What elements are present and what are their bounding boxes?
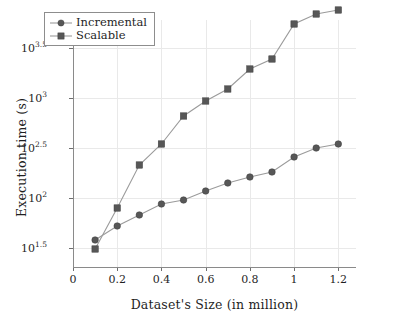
data-point-scalable (92, 246, 98, 252)
data-point-incremental (114, 223, 121, 230)
data-point-scalable (114, 205, 120, 211)
square-marker-icon (49, 30, 73, 42)
y-tick-label: 102.5 (21, 140, 47, 155)
data-point-incremental (158, 201, 165, 208)
legend-label-scalable: Scalable (76, 29, 126, 42)
x-tick-label: 0 (53, 273, 93, 286)
data-point-incremental (313, 145, 320, 152)
data-point-scalable (158, 141, 164, 147)
x-tick-label: 0.8 (230, 273, 270, 286)
x-tick-label: 0.6 (186, 273, 226, 286)
data-point-scalable (335, 7, 341, 13)
data-point-incremental (291, 154, 298, 161)
data-point-incremental (202, 188, 209, 195)
data-point-scalable (225, 86, 231, 92)
data-point-incremental (224, 180, 231, 187)
data-point-scalable (269, 56, 275, 62)
data-point-incremental (180, 197, 187, 204)
data-point-incremental (247, 174, 254, 181)
circle-marker-icon (49, 17, 73, 29)
series-line-incremental (95, 144, 338, 240)
data-point-scalable (247, 66, 253, 72)
y-tick-label: 103 (28, 90, 47, 105)
data-point-scalable (136, 162, 142, 168)
x-tick-label: 0.2 (97, 273, 137, 286)
y-tick-label: 102 (28, 190, 47, 205)
y-axis-title: Execution time (s) (14, 53, 29, 263)
chart-figure: Execution time (s) Dataset's Size (in mi… (0, 0, 399, 329)
x-tick-label: 1.2 (318, 273, 358, 286)
data-point-scalable (313, 11, 319, 17)
data-point-incremental (136, 212, 143, 219)
x-tick-label: 1 (274, 273, 314, 286)
data-point-incremental (335, 141, 342, 148)
data-point-incremental (269, 169, 276, 176)
legend: Incremental Scalable (44, 12, 155, 46)
data-series-layer (73, 20, 356, 268)
data-point-scalable (202, 98, 208, 104)
data-point-scalable (180, 113, 186, 119)
legend-item-scalable[interactable]: Scalable (49, 29, 147, 42)
x-tick-label: 0.4 (141, 273, 181, 286)
plot-area: 101.5102102.5103103.5 00.20.40.60.811.2 (73, 20, 356, 268)
y-tick-label: 101.5 (21, 240, 47, 255)
data-point-incremental (92, 237, 99, 244)
data-point-scalable (291, 21, 297, 27)
x-axis-title: Dataset's Size (in million) (73, 297, 356, 312)
